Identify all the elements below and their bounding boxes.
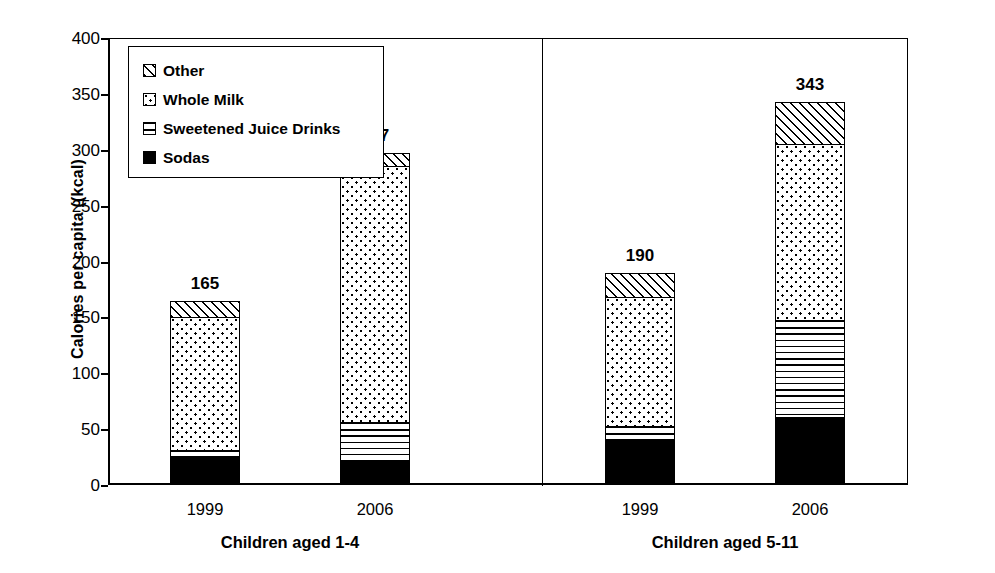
bar-total-label: 343 <box>755 75 865 95</box>
bar-segment <box>171 302 239 319</box>
x-axis-tick-label: 2006 <box>740 500 880 519</box>
bar-segment <box>171 451 239 458</box>
bar-segment <box>776 145 844 321</box>
bar-segment <box>606 298 674 427</box>
chart-legend: OtherWhole MilkSweetened Juice DrinksSod… <box>128 46 384 178</box>
legend-item-label: Whole Milk <box>163 91 244 109</box>
legend-swatch-icon <box>143 122 156 135</box>
y-axis-tick-mark <box>101 262 108 264</box>
bar-segment <box>606 441 674 485</box>
bar-segment <box>341 423 409 463</box>
legend-swatch-icon <box>143 151 156 164</box>
stacked-bar <box>775 102 845 485</box>
legend-item-label: Sodas <box>163 149 210 167</box>
stacked-bar <box>170 301 240 485</box>
bar-segment <box>776 321 844 418</box>
bar-segment <box>606 274 674 298</box>
y-axis-tick-label: 50 <box>50 421 100 438</box>
y-axis-tick-mark <box>101 38 108 40</box>
stacked-bar-chart-figure: Calories per capita ((kcal) 400350300250… <box>0 0 995 573</box>
y-axis-tick-mark <box>101 317 108 319</box>
bar-segment <box>341 167 409 422</box>
y-axis-tick-mark <box>101 373 108 375</box>
bar-segment <box>341 463 409 485</box>
legend-item-label: Sweetened Juice Drinks <box>163 120 340 138</box>
x-axis-tick-label: 2006 <box>305 500 445 519</box>
legend-item: Sweetened Juice Drinks <box>143 114 383 143</box>
stacked-bar <box>605 273 675 485</box>
bar-total-label: 190 <box>585 246 695 266</box>
y-axis-tick-label: 300 <box>50 141 100 158</box>
y-axis-tick-label: 0 <box>50 477 100 494</box>
y-axis-tick-label: 200 <box>50 253 100 270</box>
y-axis-tick-mark <box>101 206 108 208</box>
y-axis-tick-mark <box>101 150 108 152</box>
stacked-bar <box>340 153 410 485</box>
bar-segment <box>171 318 239 450</box>
x-axis-tick-label: 1999 <box>135 500 275 519</box>
bar-segment <box>776 103 844 145</box>
legend-item: Sodas <box>143 143 383 172</box>
x-axis-group-label: Children aged 1-4 <box>80 533 500 552</box>
y-axis-tick-label: 250 <box>50 197 100 214</box>
bar-segment <box>171 457 239 485</box>
y-axis-tick-label: 350 <box>50 85 100 102</box>
legend-item-label: Other <box>163 62 204 80</box>
bar-segment <box>776 418 844 485</box>
legend-item: Other <box>143 56 383 85</box>
group-divider-line <box>542 39 543 486</box>
legend-swatch-icon <box>143 64 156 77</box>
x-axis-group-label: Children aged 5-11 <box>515 533 935 552</box>
y-axis-tick-label: 150 <box>50 309 100 326</box>
x-axis-tick-label: 1999 <box>570 500 710 519</box>
y-axis-tick-mark <box>101 94 108 96</box>
y-axis-tick-label: 400 <box>50 30 100 47</box>
y-axis-tick-mark <box>101 485 108 487</box>
bar-segment <box>606 427 674 440</box>
y-axis-tick-mark <box>101 429 108 431</box>
bar-total-label: 165 <box>150 274 260 294</box>
legend-item: Whole Milk <box>143 85 383 114</box>
legend-swatch-icon <box>143 93 156 106</box>
y-axis-tick-label: 100 <box>50 365 100 382</box>
